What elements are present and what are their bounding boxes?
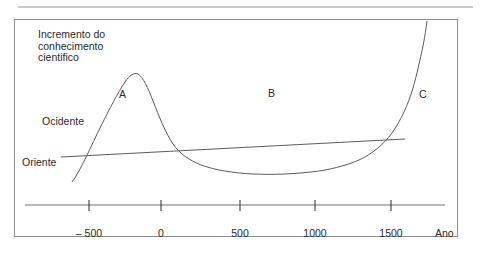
region-label-c: C <box>419 89 427 101</box>
x-tick-label-1000: 1000 <box>291 228 339 240</box>
x-tick-label--500: – 500 <box>65 228 113 240</box>
series-label-oriente: Oriente <box>22 157 56 169</box>
y-axis-title: Incremento doconhecimentocientifico <box>38 29 105 64</box>
x-axis-title: Ano <box>435 228 454 240</box>
y-axis-title-line-2: conhecimento <box>38 40 103 52</box>
x-tick-label-1500: 1500 <box>367 228 415 240</box>
chart-panel: Incremento doconhecimentocientifico Ocid… <box>14 19 458 237</box>
region-label-b: B <box>268 88 275 100</box>
series-label-ocidente: Ocidente <box>42 116 84 128</box>
x-tick-label-500: 500 <box>218 228 262 240</box>
y-axis-title-line-3: cientifico <box>38 51 79 63</box>
series-curve-ocidente <box>72 21 427 182</box>
series-line-oriente <box>61 139 405 157</box>
top-divider-rule <box>18 6 473 8</box>
x-tick-label-0: 0 <box>141 228 181 240</box>
region-label-a: A <box>119 89 126 101</box>
chart-figure: Incremento doconhecimentocientifico Ocid… <box>0 0 481 256</box>
y-axis-title-line-1: Incremento do <box>38 28 105 40</box>
